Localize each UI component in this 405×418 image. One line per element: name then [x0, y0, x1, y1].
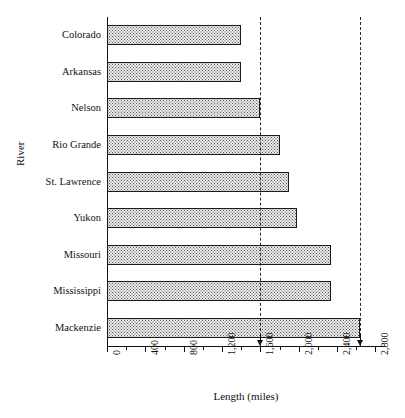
x-tick-major — [184, 346, 185, 352]
y-tick-label: Yukon — [1, 212, 101, 223]
bar-row — [107, 281, 385, 301]
y-tick-label: Mississippi — [1, 285, 101, 296]
bar-arkansas — [107, 62, 241, 82]
bar-row — [107, 62, 385, 82]
x-tick-label: 800 — [188, 340, 199, 355]
bar-mississippi — [107, 281, 331, 301]
x-tick-label: 0 — [111, 350, 122, 355]
bar-missouri — [107, 245, 331, 265]
x-tick-minor — [356, 346, 357, 350]
x-tick-major — [337, 346, 338, 352]
upper-reference-dashed-line — [360, 17, 361, 346]
x-tick-major — [260, 346, 261, 352]
x-tick-minor — [280, 346, 281, 350]
y-tick-label: Mackenzie — [1, 322, 101, 333]
x-tick-minor — [318, 346, 319, 350]
x-tick-label: 1,200 — [226, 333, 237, 356]
y-tick-label: Colorado — [1, 29, 101, 40]
x-tick-label: 400 — [149, 340, 160, 355]
plot-area — [107, 17, 385, 346]
x-tick-label: 2,800 — [379, 333, 390, 356]
bar-row — [107, 98, 385, 118]
x-tick-minor — [203, 346, 204, 350]
bar-rio-grande — [107, 135, 280, 155]
bar-st-lawrence — [107, 172, 289, 192]
bar-row — [107, 172, 385, 192]
x-tick-major — [375, 346, 376, 352]
x-tick-major — [145, 346, 146, 352]
lower-reference-dashed-line — [260, 17, 261, 346]
bar-row — [107, 245, 385, 265]
x-tick-minor — [126, 346, 127, 350]
x-tick-major — [107, 346, 108, 352]
x-tick-major — [222, 346, 223, 352]
x-tick-label: 2,400 — [341, 333, 352, 356]
y-tick-label: Arkansas — [1, 66, 101, 77]
x-tick-minor — [165, 346, 166, 350]
x-tick-label: 2,000 — [303, 333, 314, 356]
x-tick-major — [299, 346, 300, 352]
x-axis-title: Length (miles) — [107, 390, 385, 402]
y-tick-label: St. Lawrence — [1, 176, 101, 187]
y-axis-title: River — [14, 142, 26, 166]
bar-yukon — [107, 208, 297, 228]
bar-row — [107, 135, 385, 155]
bar-row — [107, 208, 385, 228]
upper-reference-down-arrow-icon — [357, 340, 363, 346]
bar-chart: ColoradoArkansasNelsonRio GrandeSt. Lawr… — [0, 0, 405, 418]
bar-colorado — [107, 25, 241, 45]
bar-nelson — [107, 98, 260, 118]
bar-row — [107, 25, 385, 45]
y-tick-label: Nelson — [1, 102, 101, 113]
x-tick-minor — [241, 346, 242, 350]
y-tick-label: Missouri — [1, 249, 101, 260]
x-tick-label: 1,600 — [264, 333, 275, 356]
